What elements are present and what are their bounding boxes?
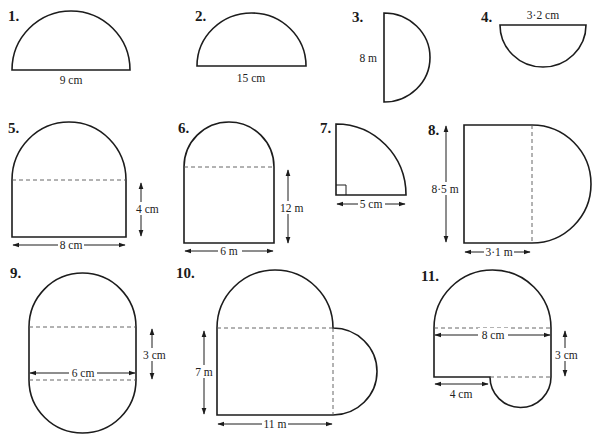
offset-label: 4 cm — [450, 388, 473, 400]
composite-shape — [12, 122, 126, 237]
figure-11: 11. 8 cm 3 cm 4 cm — [421, 268, 582, 407]
figure-10-number: 10. — [176, 265, 195, 281]
width-label: 6 m — [220, 245, 238, 257]
figure-2-number: 2. — [195, 8, 207, 24]
figure-5: 5. 4 cm 8 cm — [8, 120, 159, 251]
figure-8-number: 8. — [428, 122, 440, 138]
diameter-label: 15 cm — [237, 72, 265, 84]
height-label: 8·5 m — [431, 183, 458, 195]
figure-6-number: 6. — [178, 120, 190, 136]
figure-3: 3. 8 m — [352, 9, 430, 102]
figure-7-number: 7. — [320, 120, 332, 136]
height-label: 3 cm — [143, 349, 166, 361]
diameter-label: 9 cm — [60, 74, 83, 86]
figure-4-number: 4. — [481, 9, 493, 25]
diameter-label: 8 m — [359, 52, 377, 64]
semicircle-shape — [500, 25, 586, 67]
figure-9: 9. 3 cm 6 cm — [10, 265, 168, 433]
semicircle-shape — [384, 13, 430, 102]
height-label: 3 cm — [555, 349, 578, 361]
figure-1: 1. 9 cm — [8, 8, 130, 86]
quarter-circle-shape — [336, 124, 406, 195]
figure-2: 2. 15 cm — [195, 8, 306, 84]
semicircle-shape — [12, 11, 130, 70]
radius-label: 5 cm — [360, 198, 383, 210]
width-label: 8 cm — [60, 239, 83, 251]
width-label: 11 m — [264, 418, 287, 430]
height-label: 7 m — [195, 366, 213, 378]
figure-5-number: 5. — [8, 120, 20, 136]
composite-shape — [464, 125, 591, 243]
figure-6: 6. 12 m 6 m — [178, 120, 303, 257]
right-angle-marker — [336, 185, 346, 195]
width-label: 3·1 m — [485, 246, 512, 258]
width-label: 8 cm — [482, 329, 505, 341]
figure-9-number: 9. — [10, 265, 22, 281]
height-label: 4 cm — [136, 203, 159, 215]
composite-shape — [29, 273, 136, 433]
semicircle-shape — [197, 13, 306, 66]
width-label: 6 cm — [72, 367, 95, 379]
figure-4: 4. 3·2 cm — [481, 9, 586, 67]
figure-3-number: 3. — [352, 9, 364, 25]
figure-8: 8. 8·5 m 3·1 m — [428, 122, 591, 258]
composite-shape — [217, 270, 377, 415]
composite-shape — [184, 122, 274, 243]
figure-11-number: 11. — [421, 268, 439, 284]
figure-1-number: 1. — [8, 8, 20, 24]
composite-shapes-diagram: 1. 9 cm 2. 15 cm 3. 8 m 4. 3·2 cm 5. 4 c… — [0, 0, 598, 437]
figure-10: 10. 7 m 11 m — [176, 265, 377, 430]
diameter-label: 3·2 cm — [527, 9, 559, 21]
height-label: 12 m — [280, 202, 303, 214]
figure-7: 7. 5 cm — [320, 120, 406, 210]
